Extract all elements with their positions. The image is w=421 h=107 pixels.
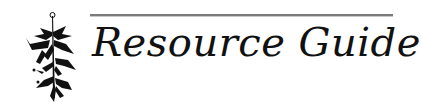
header-rule-shadow: [90, 16, 393, 17]
page-title: Resource Guide: [92, 22, 421, 62]
lily-flower-icon: [22, 10, 78, 102]
